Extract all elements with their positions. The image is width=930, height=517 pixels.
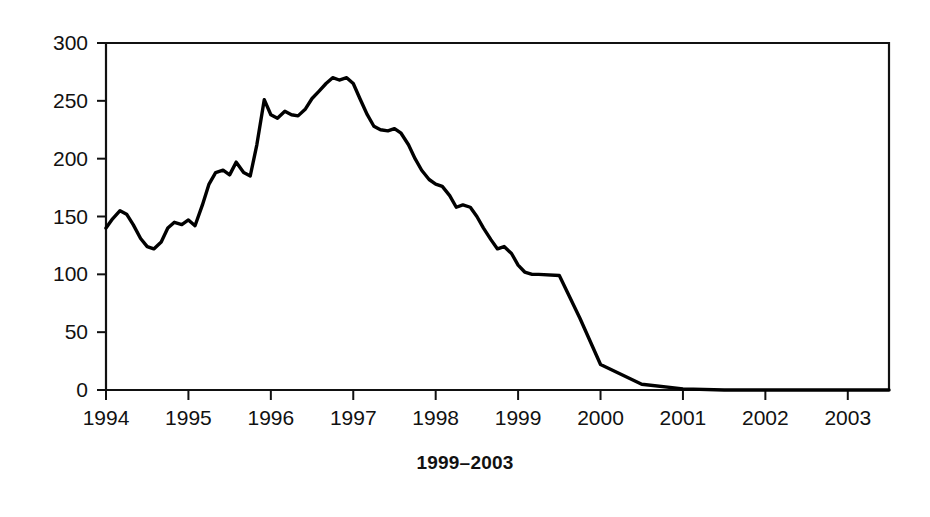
x-tick-label: 2001 (660, 406, 707, 429)
x-tick-label: 2003 (824, 406, 871, 429)
x-tick-label: 1995 (165, 406, 212, 429)
y-tick-label: 250 (53, 89, 88, 112)
x-tick-label: 1996 (247, 406, 294, 429)
x-tick-label: 2000 (577, 406, 624, 429)
y-axis-labels: 050100150200250300 (53, 31, 88, 401)
axis-frame (106, 43, 889, 390)
x-tick-label: 1999 (495, 406, 542, 429)
x-tick-label: 1994 (83, 406, 130, 429)
y-tick-label: 50 (65, 320, 88, 343)
y-tick-label: 0 (76, 378, 88, 401)
y-tick-label: 200 (53, 147, 88, 170)
y-tick-label: 300 (53, 31, 88, 54)
x-axis-labels: 1994199519961997199819992000200120022003 (83, 406, 872, 429)
y-axis-ticks (97, 43, 106, 390)
data-series-line (106, 78, 889, 390)
chart-caption: 1999–2003 (0, 452, 930, 474)
x-tick-label: 1997 (330, 406, 377, 429)
y-tick-label: 150 (53, 205, 88, 228)
chart-figure: 050100150200250300 199419951996199719981… (0, 0, 930, 517)
y-tick-label: 100 (53, 262, 88, 285)
line-chart: 050100150200250300 199419951996199719981… (0, 0, 930, 460)
x-tick-label: 1998 (412, 406, 459, 429)
x-tick-label: 2002 (742, 406, 789, 429)
